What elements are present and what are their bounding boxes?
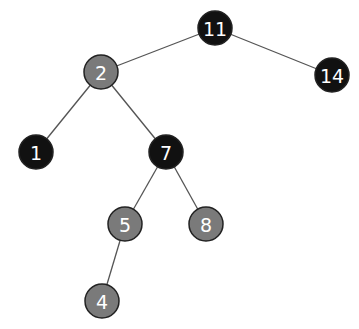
node-4: 4 — [85, 284, 119, 318]
node-label: 7 — [160, 142, 172, 164]
edges-group — [36, 28, 332, 301]
node-14: 14 — [315, 58, 349, 92]
node-label: 11 — [203, 18, 227, 40]
edge-11-14 — [215, 28, 332, 75]
node-5: 5 — [108, 207, 142, 241]
node-2: 2 — [84, 55, 118, 89]
tree-diagram: 11 2 14 1 7 5 8 4 — [0, 0, 359, 329]
node-label: 4 — [96, 291, 108, 313]
node-label: 14 — [320, 65, 344, 87]
node-label: 5 — [119, 214, 131, 236]
edge-11-2 — [101, 28, 215, 72]
node-label: 8 — [200, 214, 212, 236]
node-1: 1 — [19, 135, 53, 169]
node-8: 8 — [189, 207, 223, 241]
node-label: 2 — [95, 62, 107, 84]
node-label: 1 — [30, 142, 42, 164]
node-11: 11 — [198, 11, 232, 45]
node-7: 7 — [149, 135, 183, 169]
